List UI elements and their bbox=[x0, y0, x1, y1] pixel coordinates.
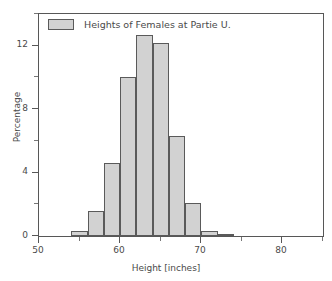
y-tick-minor bbox=[34, 140, 38, 141]
legend-label: Heights of Females at Partie U. bbox=[84, 19, 231, 30]
x-axis-title: Height [inches] bbox=[0, 263, 332, 273]
histogram-bar bbox=[120, 77, 136, 236]
x-tick-major bbox=[200, 237, 201, 243]
y-tick-major bbox=[32, 172, 38, 173]
x-tick-label: 70 bbox=[180, 245, 220, 255]
plot-frame bbox=[38, 13, 324, 237]
y-tick-label: 0 bbox=[22, 231, 28, 240]
legend: Heights of Females at Partie U. bbox=[48, 19, 231, 30]
y-tick-minor bbox=[34, 13, 38, 14]
y-tick-minor bbox=[34, 203, 38, 204]
histogram-bar bbox=[218, 234, 234, 236]
histogram-bar bbox=[104, 163, 120, 236]
histogram-bar bbox=[153, 43, 169, 236]
y-tick-major bbox=[32, 108, 38, 109]
histogram-bar bbox=[71, 231, 87, 236]
y-tick-label: 4 bbox=[22, 167, 28, 176]
x-tick-major bbox=[119, 237, 120, 243]
y-axis-title: Percentage bbox=[12, 67, 22, 167]
x-tick-major bbox=[281, 237, 282, 243]
histogram-figure: 04812 Percentage 50607080 Height [inches… bbox=[0, 0, 332, 281]
plot-area bbox=[39, 14, 323, 236]
x-tick-label: 80 bbox=[261, 245, 301, 255]
histogram-bar bbox=[169, 136, 185, 236]
x-tick-label: 50 bbox=[18, 245, 58, 255]
histogram-bar bbox=[136, 35, 152, 236]
y-tick-major bbox=[32, 235, 38, 236]
x-tick-minor bbox=[79, 237, 80, 241]
x-tick-label: 60 bbox=[99, 245, 139, 255]
y-tick-label: 12 bbox=[17, 40, 28, 49]
x-tick-minor bbox=[160, 237, 161, 241]
legend-swatch-icon bbox=[48, 19, 74, 30]
x-tick-major bbox=[38, 237, 39, 243]
x-tick-minor bbox=[322, 237, 323, 241]
x-tick-minor bbox=[241, 237, 242, 241]
y-tick-label: 8 bbox=[22, 104, 28, 113]
histogram-bar bbox=[185, 203, 201, 236]
y-tick-major bbox=[32, 45, 38, 46]
histogram-bar bbox=[201, 231, 217, 236]
histogram-bar bbox=[88, 211, 104, 236]
y-tick-minor bbox=[34, 76, 38, 77]
